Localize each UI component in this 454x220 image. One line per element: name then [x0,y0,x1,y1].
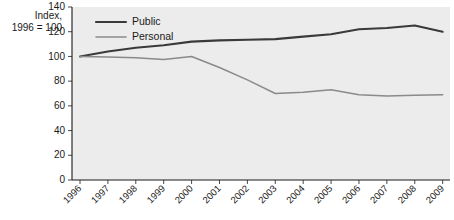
y-tick-label: 20 [54,149,66,160]
legend-label-personal: Personal [132,30,173,42]
y-tick-label: 80 [54,75,66,86]
chart-canvas: 020406080100120140 199619971998199920002… [0,0,454,220]
x-tick-label: 1996 [61,183,84,206]
y-tick-label: 40 [54,125,66,136]
x-tick-label: 2000 [172,183,195,206]
x-tick-label: 2008 [395,183,418,206]
x-tick-label: 2003 [256,183,279,206]
x-tick-label: 2007 [368,183,391,206]
y-axis-ticks [68,7,72,180]
y-tick-label: 0 [59,174,65,185]
x-tick-label: 1997 [89,183,112,206]
line-chart: 020406080100120140 199619971998199920002… [0,0,454,220]
x-tick-label: 2001 [200,183,223,206]
y-axis-title-line1: Index, [35,10,62,21]
x-axis-ticks [80,180,443,184]
x-tick-label: 2009 [423,183,446,206]
y-axis-title-line2: 1996 = 100 [12,22,63,33]
x-tick-label: 2002 [228,183,251,206]
y-tick-label: 60 [54,100,66,111]
y-tick-label: 100 [48,51,65,62]
x-axis-tick-labels: 1996199719981999200020012002200320042005… [61,183,446,206]
x-tick-label: 1998 [116,183,139,206]
legend-label-public: Public [132,15,161,27]
plot-background [72,7,450,180]
x-tick-label: 2004 [284,183,307,206]
x-tick-label: 1999 [144,183,167,206]
x-tick-label: 2006 [340,183,363,206]
x-tick-label: 2005 [312,183,335,206]
